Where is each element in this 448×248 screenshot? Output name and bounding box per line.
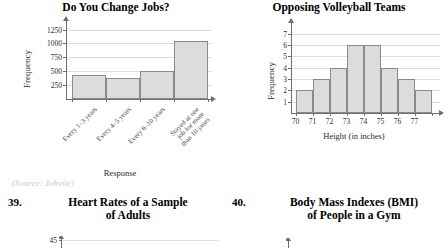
x-axis-label: Response [60,168,180,178]
xtick-mark-2 [330,113,331,116]
ytick-label-6: 6 [268,41,287,50]
xtick-mark-3 [347,113,348,116]
bar-every-4-5-years [106,78,140,99]
plot-area [291,27,440,113]
chart-opposing-volleyball-teams: Opposing Volleyball Teams Frequency [224,0,448,150]
xtick-mark-0 [72,99,73,102]
plot-area [66,25,212,99]
x-axis-arrow-icon [439,110,444,116]
ytick-mark-1250 [63,30,66,31]
ytick-mark-5 [288,56,291,57]
y-axis-arrow-icon [288,18,294,23]
bar-every-6-10-years [140,71,174,99]
bar-73 [347,45,364,113]
chart-do-you-change-jobs: Do You Change Jobs? Frequency [0,0,224,180]
y-axis-label: Frequency [22,50,32,88]
ytick-mark-45 [59,240,61,241]
xtick-mark-5 [381,113,382,116]
xtick-mark-3 [174,99,175,102]
textbook-figure-page: Do You Change Jobs? Frequency [0,0,448,248]
xtick-label-every-1-3-years: Every 1–3 years [37,106,99,168]
chart-heart-rates: 39. Heart Rates of a Sample of Adults 45 [0,196,224,248]
bar-71 [313,79,330,113]
chart-title: Do You Change Jobs? [18,1,214,14]
ytick-label-2: 2 [268,86,287,95]
ytick-mark-1000 [63,43,66,44]
plot-area-cropped [286,238,446,248]
gridline-7 [291,34,440,35]
ytick-mark-250 [63,85,66,86]
ytick-label-1000: 1000 [32,39,62,48]
ytick-mark-3 [288,79,291,80]
chart-title: Body Mass Indexes (BMI) of People in a G… [260,196,448,222]
xtick-mark-6 [398,113,399,116]
xtick-mark-0 [296,113,297,116]
y-axis-arrow-icon [59,236,64,239]
plot-area-cropped [59,236,219,248]
ytick-mark-6 [288,45,291,46]
ytick-label-750: 750 [32,53,62,62]
xtick-mark-1 [106,99,107,102]
ytick-label-1: 1 [268,98,287,107]
ytick-label-7: 7 [268,30,287,39]
bar-70 [296,90,313,113]
xtick-label-every-4-5-years: Every 4–5 years [71,106,133,168]
source-note: (Source: Jobvite) [12,178,74,188]
ytick-label-5: 5 [268,52,287,61]
x-axis-line [66,99,212,100]
ytick-label-1250: 1250 [32,26,62,35]
ytick-label-250: 250 [32,81,62,90]
ytick-mark-500 [63,71,66,72]
y-axis-arrow-icon [63,16,69,21]
ytick-mark-4 [288,68,291,69]
ytick-label-4: 4 [268,64,287,73]
bar-72 [330,68,347,113]
bar-every-1-3-years [72,75,106,99]
ytick-label-500: 500 [32,67,62,76]
gridline-1250 [66,30,212,31]
xtick-label-77: 77 [405,117,425,126]
xtick-mark-8 [432,113,433,116]
ytick-mark-7 [288,34,291,35]
xtick-mark-4 [364,113,365,116]
chart-title: Opposing Volleyball Teams [234,1,444,14]
bar-76 [398,79,415,113]
ytick-mark-1 [288,102,291,103]
bar-77 [415,90,432,113]
gridline-45 [61,240,219,241]
ytick-mark-2 [288,90,291,91]
y-axis-line [66,20,67,99]
exercise-number-40: 40. [232,196,246,208]
xtick-mark-4 [208,99,209,102]
chart-body-mass-indexes: 40. Body Mass Indexes (BMI) of People in… [224,196,448,248]
xtick-mark-7 [415,113,416,116]
xtick-mark-1 [313,113,314,116]
exercise-number-39: 39. [8,196,22,208]
y-axis-line [291,22,292,113]
ytick-label-45: 45 [38,236,57,245]
xtick-mark-2 [140,99,141,102]
x-axis-label: Height (in inches) [284,131,424,141]
chart-title: Heart Rates of a Sample of Adults [40,196,216,222]
ytick-mark-750 [63,57,66,58]
y-axis-arrow-icon [286,238,291,241]
bar-75 [381,68,398,113]
bar-74 [364,45,381,113]
bar-stayed-at-one-job [174,41,208,99]
ytick-label-3: 3 [268,75,287,84]
x-axis-arrow-icon [211,96,216,102]
